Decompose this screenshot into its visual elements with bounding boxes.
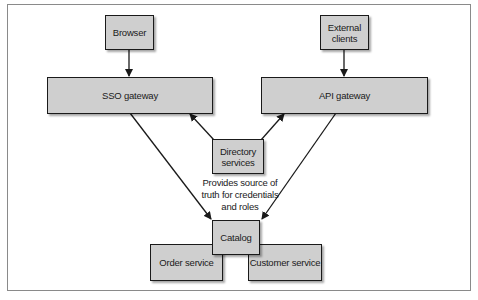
node-label: Order service bbox=[159, 257, 213, 268]
edge-directory-sso bbox=[190, 114, 214, 140]
node-label: Directory services bbox=[220, 146, 256, 168]
node-sso-gateway: SSO gateway bbox=[47, 77, 213, 114]
node-label: External clients bbox=[328, 22, 361, 44]
node-browser: Browser bbox=[105, 15, 154, 50]
node-label: SSO gateway bbox=[102, 90, 158, 101]
annotation-source-of-truth: Provides source of truth for credentials… bbox=[190, 177, 290, 213]
node-catalog: Catalog bbox=[212, 220, 260, 255]
node-directory-services: Directory services bbox=[212, 139, 264, 174]
node-label: Browser bbox=[113, 27, 146, 38]
node-api-gateway: API gateway bbox=[261, 77, 428, 114]
edge-directory-api bbox=[261, 114, 284, 140]
node-label: API gateway bbox=[319, 90, 370, 101]
node-label: Customer service bbox=[250, 257, 321, 268]
node-external-clients: External clients bbox=[320, 15, 369, 50]
node-label: Catalog bbox=[220, 232, 251, 243]
